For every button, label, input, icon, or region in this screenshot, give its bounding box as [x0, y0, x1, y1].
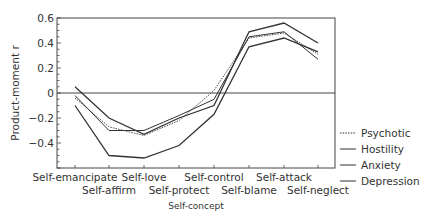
series-line-depression	[75, 38, 318, 158]
y-tick-label: 0.4	[37, 37, 54, 49]
x-tick-label: Self-neglect	[287, 184, 349, 196]
y-tick-label: 0.6	[37, 12, 54, 24]
series-line-hostility	[75, 23, 318, 134]
y-tick-label: −0.2	[29, 112, 55, 124]
x-tick-label: Self-control	[184, 171, 243, 183]
legend-label-anxiety: Anxiety	[361, 159, 401, 171]
x-tick-label: Self-blame	[221, 184, 277, 196]
series-line-anxiety	[75, 32, 318, 131]
y-axis-label: Product-moment r	[9, 45, 21, 141]
series-lines	[75, 23, 318, 158]
x-axis-label: Self-concept	[168, 201, 224, 211]
y-axis: 0.60.40.20−0.2−0.4	[29, 12, 62, 168]
y-tick-label: −0.4	[29, 137, 55, 149]
line-chart: 0.60.40.20−0.2−0.4 Self-emancipateSelf-a…	[0, 0, 435, 222]
plot-frame	[57, 18, 335, 168]
x-tick-label: Self-affirm	[82, 184, 136, 196]
x-tick-label: Self-emancipate	[32, 171, 117, 183]
legend-label-depression: Depression	[361, 175, 420, 187]
x-tick-label: Self-love	[122, 171, 167, 183]
legend-label-hostility: Hostility	[361, 143, 404, 155]
x-tick-label: Self-protect	[149, 184, 210, 196]
legend: PsychoticHostilityAnxietyDepression	[340, 127, 420, 187]
x-axis: Self-emancipateSelf-affirmSelf-loveSelf-…	[32, 165, 349, 196]
x-tick-label: Self-attack	[256, 171, 313, 183]
series-line-psychotic	[75, 33, 318, 136]
y-tick-label: 0.2	[37, 62, 54, 74]
legend-label-psychotic: Psychotic	[361, 127, 411, 139]
y-tick-label: 0	[47, 87, 54, 99]
